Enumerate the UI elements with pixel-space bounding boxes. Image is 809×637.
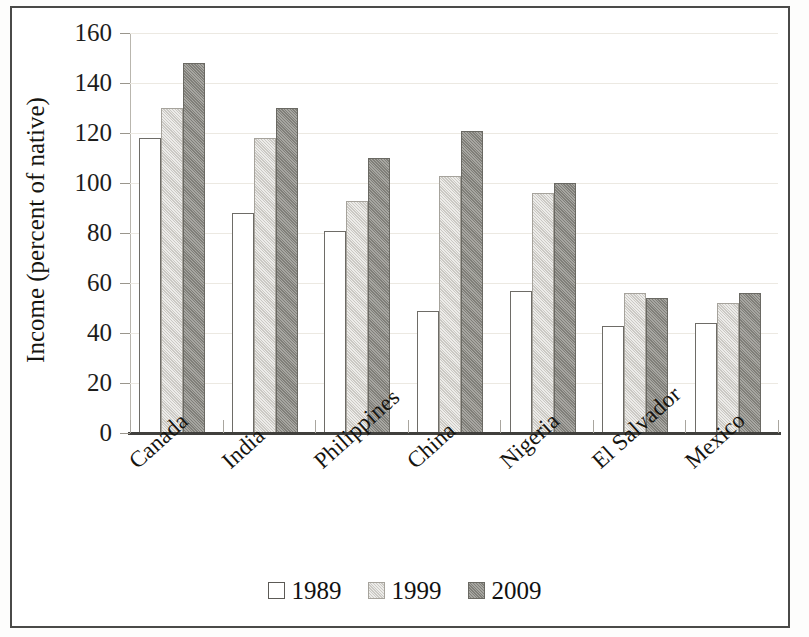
bar-nigeria-2009 xyxy=(554,183,576,433)
bar-china-1989 xyxy=(417,311,439,434)
bar-canada-1999 xyxy=(161,108,183,433)
x-axis-tick-mark xyxy=(500,420,501,433)
y-axis-tick-label: 140 xyxy=(48,70,112,95)
bar-india-1999 xyxy=(254,138,276,433)
y-axis-tick-labels: 160140120100806040200 xyxy=(40,0,112,637)
gridline xyxy=(130,133,778,134)
bar-mexico-1989 xyxy=(695,323,717,433)
bar-mexico-2009 xyxy=(739,293,761,433)
light-gray-square-swatch xyxy=(368,582,385,599)
white-square-swatch xyxy=(268,582,285,599)
plot-area xyxy=(130,33,778,433)
bar-china-2009 xyxy=(461,131,483,434)
y-axis-tick-label: 20 xyxy=(48,370,112,395)
bar-india-2009 xyxy=(276,108,298,433)
y-axis-tick-label: 80 xyxy=(48,220,112,245)
bar-china-1999 xyxy=(439,176,461,434)
bar-nigeria-1999 xyxy=(532,193,554,433)
y-axis-tick-mark xyxy=(120,383,130,384)
y-axis-tick-label: 120 xyxy=(48,120,112,145)
y-axis-tick-mark xyxy=(120,233,130,234)
y-axis-tick-mark xyxy=(120,433,130,434)
dark-gray-square-swatch xyxy=(468,582,485,599)
x-axis-tick-mark xyxy=(408,420,409,433)
y-axis-tick-label: 100 xyxy=(48,170,112,195)
x-axis-tick-mark xyxy=(223,420,224,433)
bar-canada-1989 xyxy=(139,138,161,433)
x-axis-tick-mark xyxy=(778,420,779,433)
y-axis-tick-label: 40 xyxy=(48,320,112,345)
gridline xyxy=(130,83,778,84)
bar-india-1989 xyxy=(232,213,254,433)
y-axis-tick-mark xyxy=(120,83,130,84)
legend-label: 1989 xyxy=(292,578,342,603)
y-axis-tick-mark xyxy=(120,333,130,334)
legend-item-1989: 1989 xyxy=(268,578,342,603)
bar-nigeria-1989 xyxy=(510,291,532,434)
legend-label: 2009 xyxy=(492,578,542,603)
y-axis-tick-mark xyxy=(120,33,130,34)
y-axis-title: Income (percent of native) xyxy=(22,20,50,440)
gridline xyxy=(130,33,778,34)
legend-item-2009: 2009 xyxy=(468,578,542,603)
y-axis-tick-label: 60 xyxy=(48,270,112,295)
y-axis-tick-label: 0 xyxy=(48,420,112,445)
x-axis-tick-mark xyxy=(315,420,316,433)
y-axis-tick-label: 160 xyxy=(48,20,112,45)
legend-item-1999: 1999 xyxy=(368,578,442,603)
y-axis-tick-mark xyxy=(120,133,130,134)
x-axis-tick-mark xyxy=(685,420,686,433)
bar-philippines-1989 xyxy=(324,231,346,434)
x-axis-tick-mark xyxy=(130,420,131,433)
y-axis-tick-mark xyxy=(120,283,130,284)
bar-el-salvador-1989 xyxy=(602,326,624,434)
y-axis-tick-mark xyxy=(120,183,130,184)
bar-canada-2009 xyxy=(183,63,205,433)
legend-label: 1999 xyxy=(392,578,442,603)
bar-philippines-1999 xyxy=(346,201,368,434)
x-axis-tick-mark xyxy=(593,420,594,433)
chart-legend: 198919992009 xyxy=(0,578,809,603)
bar-chart-figure: 160140120100806040200 Income (percent of… xyxy=(0,0,809,637)
